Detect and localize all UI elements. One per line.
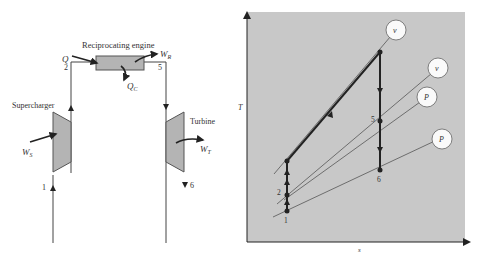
flow-arrow-2-icon bbox=[68, 105, 74, 111]
tag-v-top: v bbox=[386, 20, 406, 40]
point-2-label: 2 bbox=[277, 188, 281, 197]
tag-p-mid: P bbox=[417, 87, 437, 107]
point-1 bbox=[285, 209, 290, 214]
x-axis-label: s bbox=[358, 246, 361, 254]
work-turbine-label: WT bbox=[200, 144, 212, 155]
tag-v-right: v bbox=[428, 58, 448, 78]
pipe-engine-to-5 bbox=[143, 62, 166, 243]
work-engine-label: WR bbox=[160, 49, 172, 60]
svg-text:v: v bbox=[393, 26, 397, 35]
work-super-label: WS bbox=[22, 147, 33, 158]
heat-out-label: QC bbox=[127, 81, 139, 92]
chart-background bbox=[247, 12, 465, 242]
point-4 bbox=[378, 50, 383, 55]
point-5 bbox=[378, 119, 383, 124]
work-super-arrow-icon bbox=[30, 134, 56, 142]
heat-in-label: Q bbox=[62, 54, 69, 64]
supercharger-label: Supercharger bbox=[12, 101, 55, 110]
flow-arrow-1-icon bbox=[50, 185, 56, 191]
state-5-label: 5 bbox=[158, 63, 162, 72]
point-3 bbox=[285, 159, 290, 164]
svg-text:P: P bbox=[423, 93, 429, 102]
point-6-label: 6 bbox=[377, 175, 381, 184]
state-6-label: 6 bbox=[190, 181, 194, 190]
schematic: Reciprocating engine Supercharger Turbin… bbox=[12, 40, 215, 243]
reciprocating-engine-box bbox=[96, 56, 144, 70]
x-axis-arrow-icon bbox=[463, 238, 471, 246]
turbine-shape bbox=[166, 112, 184, 172]
tag-p-low: P bbox=[432, 129, 452, 149]
figure: Reciprocating engine Supercharger Turbin… bbox=[0, 0, 477, 257]
state-1-label: 1 bbox=[42, 183, 46, 192]
flow-arrow-6-icon bbox=[182, 182, 188, 188]
y-axis-label: T bbox=[238, 103, 243, 112]
svg-text:P: P bbox=[438, 135, 444, 144]
flow-arrow-5-icon bbox=[163, 104, 169, 110]
state-2-label: 2 bbox=[64, 63, 68, 72]
pipe-2-to-engine bbox=[71, 62, 96, 173]
point-2 bbox=[285, 193, 290, 198]
engine-label: Reciprocating engine bbox=[82, 40, 155, 50]
point-6 bbox=[378, 168, 383, 173]
supercharger-shape bbox=[53, 112, 71, 172]
turbine-label: Turbine bbox=[190, 117, 215, 126]
svg-text:v: v bbox=[435, 64, 439, 73]
point-1-label: 1 bbox=[284, 216, 288, 225]
point-5-label: 5 bbox=[371, 115, 375, 124]
ts-diagram: T s 1 2 5 6 v bbox=[238, 11, 471, 254]
